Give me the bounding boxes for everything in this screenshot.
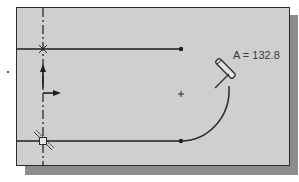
sketch-viewport[interactable]: A = 132.8 bbox=[16, 7, 290, 166]
sketch-canvas[interactable] bbox=[17, 8, 289, 165]
sketch-window: A = 132.8 bbox=[0, 0, 299, 182]
pencil-icon bbox=[215, 58, 236, 88]
angle-dimension-label: A = 132.8 bbox=[233, 49, 280, 61]
snap-point-marker[interactable] bbox=[34, 130, 54, 150]
top-line-endpoint[interactable] bbox=[179, 47, 183, 51]
origin-y-arrow-icon bbox=[40, 64, 46, 88]
tangent-arc[interactable] bbox=[181, 86, 229, 141]
arc-center-mark bbox=[178, 91, 184, 97]
stray-dot bbox=[7, 71, 9, 73]
origin-x-arrow-icon bbox=[43, 90, 61, 96]
